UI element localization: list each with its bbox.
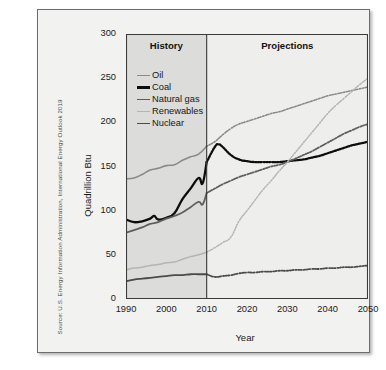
y-tick-label: 300 bbox=[90, 28, 116, 38]
x-tick-label: 2020 bbox=[230, 304, 264, 314]
source-credit: Source: U.S. Energy Information Administ… bbox=[56, 85, 63, 335]
history-period-label: History bbox=[126, 40, 206, 51]
legend-label: Natural gas bbox=[152, 94, 200, 105]
x-tick-label: 2040 bbox=[311, 304, 345, 314]
legend-label: Nuclear bbox=[152, 118, 184, 129]
chart-card: Source: U.S. Energy Information Administ… bbox=[37, 9, 370, 353]
projections-period-label: Projections bbox=[237, 40, 337, 51]
chart-legend: OilCoalNatural gasRenewablesNuclear bbox=[137, 70, 203, 129]
legend-label: Renewables bbox=[152, 106, 203, 117]
legend-swatch-icon bbox=[137, 75, 150, 77]
x-axis-title: Year bbox=[100, 332, 386, 343]
x-tick-label: 2010 bbox=[190, 304, 224, 314]
x-tick-label: 1990 bbox=[109, 304, 143, 314]
legend-swatch-icon bbox=[137, 99, 150, 101]
legend-item-renewables: Renewables bbox=[137, 106, 203, 117]
legend-swatch-icon bbox=[137, 111, 150, 113]
y-axis-title: Quadrillion Btu bbox=[82, 126, 93, 246]
x-tick-label: 2000 bbox=[149, 304, 183, 314]
x-tick-label: 2050 bbox=[351, 304, 385, 314]
legend-label: Coal bbox=[152, 82, 171, 93]
legend-item-nuclear: Nuclear bbox=[137, 118, 203, 129]
y-tick-label: 50 bbox=[90, 249, 116, 259]
y-tick-label: 150 bbox=[90, 161, 116, 171]
chart-page: Source: U.S. Energy Information Administ… bbox=[0, 0, 386, 370]
y-tick-label: 0 bbox=[90, 293, 116, 303]
legend-label: Oil bbox=[152, 70, 163, 81]
y-tick-label: 100 bbox=[90, 205, 116, 215]
y-tick-label: 250 bbox=[90, 72, 116, 82]
legend-item-coal: Coal bbox=[137, 82, 203, 93]
y-tick-label: 200 bbox=[90, 116, 116, 126]
legend-swatch-icon bbox=[137, 86, 150, 88]
legend-item-natural-gas: Natural gas bbox=[137, 94, 203, 105]
legend-swatch-icon bbox=[137, 123, 150, 125]
legend-item-oil: Oil bbox=[137, 70, 203, 81]
x-tick-label: 2030 bbox=[270, 304, 304, 314]
